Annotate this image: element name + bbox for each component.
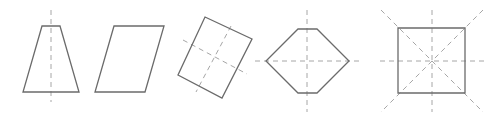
- parallelogram-outline: [95, 26, 164, 92]
- symmetry-axis-line: [196, 26, 231, 92]
- rotated-rectangle: [178, 17, 252, 98]
- parallelogram: [95, 26, 164, 92]
- symmetry-figure: [0, 0, 504, 122]
- hexagon: [255, 10, 359, 112]
- isosceles-trapezoid: [23, 10, 79, 102]
- square: [380, 10, 484, 112]
